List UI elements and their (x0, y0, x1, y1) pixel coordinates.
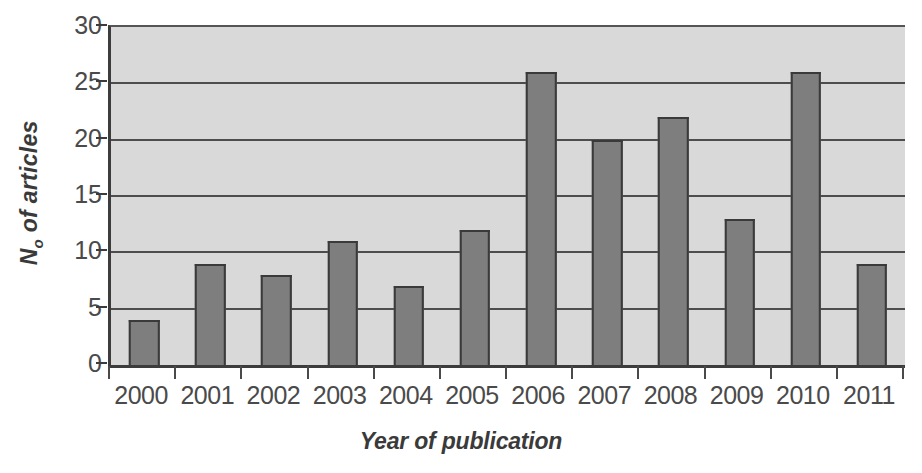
x-axis-tick-label: 2005 (439, 381, 505, 410)
bar[interactable] (791, 72, 821, 365)
bar-slot (177, 27, 243, 365)
bar-slot (640, 27, 706, 365)
x-axis-tick-mark (902, 366, 904, 379)
x-axis-tick-mark (505, 366, 507, 379)
x-axis-tick-label: 2004 (373, 381, 439, 410)
bar[interactable] (394, 286, 424, 365)
x-axis-tick-mark (704, 366, 706, 379)
bar-slot (508, 27, 574, 365)
x-axis-tick-mark (439, 366, 441, 379)
y-axis-tick-mark (96, 249, 107, 251)
bar[interactable] (460, 230, 490, 365)
chart-figure: No of articles 051015202530 200020012002… (0, 0, 922, 473)
x-axis-tick-label: 2002 (240, 381, 306, 410)
bar-slot (707, 27, 773, 365)
y-axis-tick-labels: 051015202530 (46, 0, 102, 473)
x-axis-tick-label: 2006 (505, 381, 571, 410)
x-axis-tick-label: 2010 (770, 381, 836, 410)
bar[interactable] (857, 264, 887, 365)
y-axis-title: No of articles (16, 83, 46, 303)
bar-slot (111, 27, 177, 365)
bar[interactable] (658, 117, 688, 365)
x-axis-tick-mark (770, 366, 772, 379)
bar-slot (243, 27, 309, 365)
x-axis-tick-mark (571, 366, 573, 379)
x-axis-tick-mark (637, 366, 639, 379)
x-axis-tick-label: 2007 (571, 381, 637, 410)
bar[interactable] (592, 140, 622, 365)
x-axis-tick-label: 2011 (836, 381, 902, 410)
x-axis-tick-labels: 2000200120022003200420052006200720082009… (108, 381, 902, 410)
bar[interactable] (129, 320, 159, 365)
x-axis-tick-mark (373, 366, 375, 379)
y-axis-title-prefix: N (16, 248, 42, 265)
y-axis-tick-mark (96, 306, 107, 308)
bar[interactable] (724, 219, 754, 365)
x-axis-title: Year of publication (0, 428, 922, 455)
x-axis-tick-label: 2009 (704, 381, 770, 410)
y-axis-title-suffix: of articles (16, 120, 42, 239)
bar-slot (310, 27, 376, 365)
x-axis-tick-mark (174, 366, 176, 379)
bar[interactable] (195, 264, 225, 365)
y-axis-title-subscript: o (29, 239, 46, 248)
x-axis-tick-label: 2003 (307, 381, 373, 410)
y-axis-tick-mark (96, 80, 107, 82)
x-axis-tick-label: 2008 (637, 381, 703, 410)
bar[interactable] (526, 72, 556, 365)
bar[interactable] (327, 241, 357, 365)
bar-slot (376, 27, 442, 365)
y-axis-tick-mark (96, 24, 107, 26)
x-axis-tick-label: 2001 (174, 381, 240, 410)
x-axis-tick-marks (108, 366, 902, 380)
x-axis-tick-mark (108, 366, 110, 379)
y-axis-tick-mark (96, 362, 107, 364)
bar[interactable] (261, 275, 291, 365)
y-axis-tick-mark (96, 193, 107, 195)
x-axis-tick-mark (307, 366, 309, 379)
bar-slot (839, 27, 905, 365)
bar-slot (773, 27, 839, 365)
plot-area (108, 25, 905, 368)
x-axis-tick-mark (836, 366, 838, 379)
x-axis-tick-label: 2000 (108, 381, 174, 410)
bar-slot (574, 27, 640, 365)
x-axis-tick-mark (240, 366, 242, 379)
bar-slot (442, 27, 508, 365)
bar-series (111, 27, 905, 365)
y-axis-tick-mark (96, 137, 107, 139)
